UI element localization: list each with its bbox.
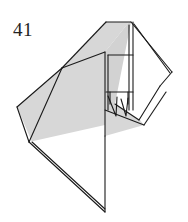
origami-diagram-figure: 41 bbox=[0, 0, 188, 222]
step-number-label: 41 bbox=[13, 20, 33, 39]
